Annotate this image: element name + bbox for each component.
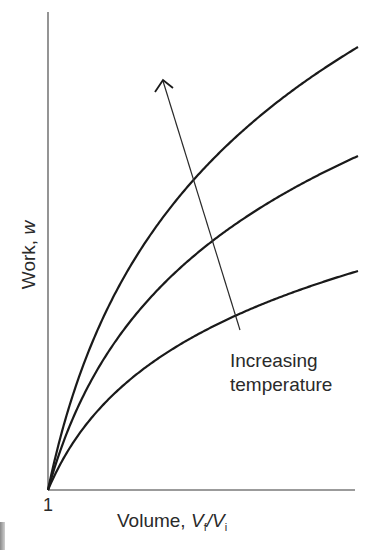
x-tick-label: 1 xyxy=(43,495,53,515)
scan-edge-artifact xyxy=(0,522,5,550)
isotherm-curve-2 xyxy=(48,156,358,490)
isotherm-curves xyxy=(48,47,358,490)
x-axis-label: Volume, Vf/Vi xyxy=(117,510,227,533)
isotherm-curve-3 xyxy=(48,47,358,490)
increasing-temperature-arrow xyxy=(155,80,240,330)
work-volume-diagram: Increasing temperature 1 Volume, Vf/Vi W… xyxy=(0,0,383,550)
y-axis-label: Work, w xyxy=(18,220,39,290)
annotation-line1: Increasing xyxy=(230,350,318,371)
annotation-line2: temperature xyxy=(230,374,332,395)
